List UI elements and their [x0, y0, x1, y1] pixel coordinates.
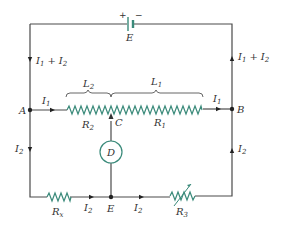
brace-L2 [66, 90, 111, 97]
arrow-right-I1-B [216, 107, 221, 111]
arrow-down-left-top [28, 57, 32, 62]
battery-plus-label: + [119, 10, 127, 20]
battery-minus-label: − [135, 10, 143, 20]
current-label-I2-E: I2 [133, 202, 143, 215]
slide-wire-resistor [67, 106, 202, 114]
resistor-R2-label: R2 [81, 119, 95, 132]
current-label-I1-B: I1 [212, 93, 221, 106]
arrow-up-right-top [230, 56, 234, 61]
resistor-R3-label: R3 [175, 206, 189, 219]
length-L2-label: L2 [82, 78, 95, 91]
variable-resistor-R3 [170, 184, 195, 206]
circuit-diagram: + − E D I1+I2 I1+I2 I1 I1 I2 I2 I2 I2 A … [0, 0, 284, 230]
slider-arrow-icon [109, 113, 114, 119]
detector-label: D [106, 147, 115, 158]
brace-L1 [111, 90, 203, 97]
current-label-left-top: I1+I2 [35, 55, 68, 68]
arrow-right-I1-A [50, 108, 55, 112]
node-E-label: E [106, 203, 115, 214]
arrow-up-right-bottom [230, 148, 234, 153]
arrow-right-I2-Rx [89, 195, 94, 199]
battery: + − E [119, 10, 143, 43]
resistor-Rx-label: Rx [51, 206, 64, 219]
current-label-right-top: I1+I2 [237, 51, 270, 64]
node-A-dot [28, 108, 32, 112]
current-label-I1-A: I1 [41, 95, 50, 108]
current-label-I2-Rx: I2 [83, 202, 93, 215]
resistor-Rx [47, 193, 71, 201]
resistor-R1-label: R1 [153, 117, 166, 130]
emf-label: E [125, 32, 134, 43]
node-E-dot [109, 195, 113, 199]
bottom-wire-right [195, 195, 232, 196]
arrow-down-left-bottom [28, 147, 32, 152]
current-label-I2-right: I2 [237, 143, 247, 156]
node-C-label: C [115, 117, 123, 128]
length-L1-label: L1 [150, 76, 162, 89]
node-B-label: B [236, 104, 244, 115]
node-B-dot [230, 107, 234, 111]
node-A-label: A [18, 105, 26, 116]
current-label-I2-left: I2 [14, 143, 24, 156]
arrow-right-I2-E [139, 195, 144, 199]
